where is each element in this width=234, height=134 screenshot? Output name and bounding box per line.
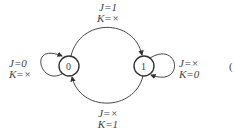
k-value: K=0 (179, 69, 199, 80)
transition-1-to-0 (72, 76, 143, 103)
k-value: K=× (96, 13, 120, 24)
state-1-label: 1 (141, 61, 146, 72)
state-0-label: 0 (66, 61, 71, 72)
transition-1-to-0-label: J=× K=1 (96, 108, 120, 130)
self-loop-0-label: J=0 K=× (9, 58, 31, 80)
k-value: K=1 (96, 119, 120, 130)
cropped-fragment: ( (229, 61, 233, 72)
transition-0-to-1 (71, 27, 142, 56)
transition-0-to-1-label: J=1 K=× (96, 2, 120, 24)
self-loop-1-label: J=× K=0 (179, 58, 199, 80)
k-value: K=× (9, 69, 31, 80)
